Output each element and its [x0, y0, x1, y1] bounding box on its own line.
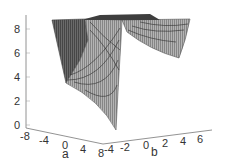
z-tick-6: 6 — [14, 47, 20, 59]
b-tick-0: 0 — [143, 139, 149, 151]
b-tick-4: 4 — [180, 135, 186, 147]
b-tick-2: 2 — [162, 137, 168, 149]
surface-plot-3d: 8 6 4 2 0 -8 -4 0 4 8 a -4 -2 0 2 4 6 b — [0, 0, 225, 164]
b-axis-label: b — [151, 145, 158, 159]
a-axis-label: a — [62, 147, 69, 161]
z-axis: 8 6 4 2 0 — [14, 15, 30, 131]
a-tick-neg8: -8 — [20, 130, 30, 142]
z-tick-2: 2 — [14, 95, 20, 107]
b-tick-6: 6 — [197, 133, 203, 145]
a-tick-4: 4 — [80, 143, 86, 155]
b-tick-neg2: -2 — [120, 141, 130, 153]
z-tick-4: 4 — [14, 71, 20, 83]
b-axis: -4 -2 0 2 4 6 b — [103, 130, 212, 159]
z-tick-8: 8 — [14, 23, 20, 35]
a-tick-neg4: -4 — [39, 134, 49, 146]
surface-mesh — [52, 14, 190, 130]
a-axis: -8 -4 0 4 8 a — [20, 128, 104, 161]
b-tick-neg4: -4 — [104, 143, 114, 155]
